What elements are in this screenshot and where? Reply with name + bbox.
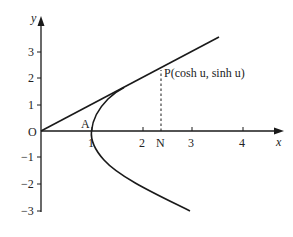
- point-a-label: A: [81, 117, 90, 131]
- hyperbola-diagram: x y 1 2 3 4 3 2 1 −1 −2 −3 O A N P(cosh …: [0, 0, 293, 237]
- line-op: [41, 37, 219, 131]
- x-axis-arrow-icon: [274, 128, 284, 135]
- x-tick-2: 2: [139, 136, 145, 150]
- y-tick-neg1: −1: [21, 150, 34, 164]
- x-tick-3: 3: [188, 136, 194, 150]
- y-tick-1: 1: [28, 98, 34, 112]
- point-n-label: N: [156, 136, 165, 150]
- origin-label: O: [28, 125, 37, 139]
- x-tick-4: 4: [239, 136, 245, 150]
- y-tick-neg3: −3: [21, 204, 34, 218]
- point-p-label: P(cosh u, sinh u): [164, 66, 245, 80]
- x-axis-label: x: [275, 135, 282, 149]
- y-tick-neg2: −2: [21, 177, 34, 191]
- y-tick-3: 3: [28, 45, 34, 59]
- y-axis-label: y: [30, 11, 37, 25]
- y-tick-2: 2: [28, 71, 34, 85]
- y-axis-arrow-icon: [38, 16, 45, 26]
